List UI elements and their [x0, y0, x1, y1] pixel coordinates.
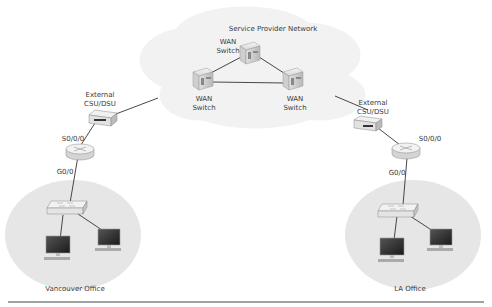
wan-switch-left-label: WAN Switch [190, 95, 218, 113]
la-csu-dsu-icon [354, 116, 382, 131]
vancouver-csu-label: External CSU/DSU [80, 91, 120, 109]
network-diagram [0, 0, 492, 307]
wan-switch-left-icon [193, 68, 213, 90]
la-lan-switch-icon [378, 204, 418, 217]
label-line: CSU/DSU [80, 100, 120, 109]
label-line: WAN [214, 38, 242, 47]
label-line: External [80, 91, 120, 100]
label-line: WAN [281, 95, 309, 104]
label-line: Switch [214, 47, 242, 56]
vancouver-lan-switch-icon [47, 201, 87, 214]
la-site-area [345, 180, 481, 290]
vancouver-serial-label: S0/0/0 [60, 135, 86, 144]
vancouver-csu-dsu-icon [89, 110, 117, 126]
cloud-title: Service Provider Network [213, 25, 333, 34]
label-line: External [353, 99, 393, 108]
label-line: Switch [190, 104, 218, 113]
label-line: CSU/DSU [353, 108, 393, 117]
la-csu-label: External CSU/DSU [353, 99, 393, 117]
wan-switch-right-label: WAN Switch [281, 95, 309, 113]
wan-switch-top-label: WAN Switch [214, 38, 242, 56]
vancouver-gig-label: G0/0 [55, 168, 75, 177]
la-router-icon [392, 143, 420, 159]
vancouver-router-icon [66, 144, 94, 160]
wan-switch-right-icon [283, 68, 303, 90]
label-line: WAN [190, 95, 218, 104]
vancouver-site-name: Vancouver Office [40, 285, 110, 294]
vancouver-site-area [5, 180, 141, 290]
wan-switch-top-icon [240, 42, 260, 64]
la-gig-label: G0/0 [387, 169, 407, 178]
la-serial-label: S0/0/0 [417, 135, 443, 144]
la-site-name: LA Office [385, 285, 435, 294]
label-line: Switch [281, 104, 309, 113]
